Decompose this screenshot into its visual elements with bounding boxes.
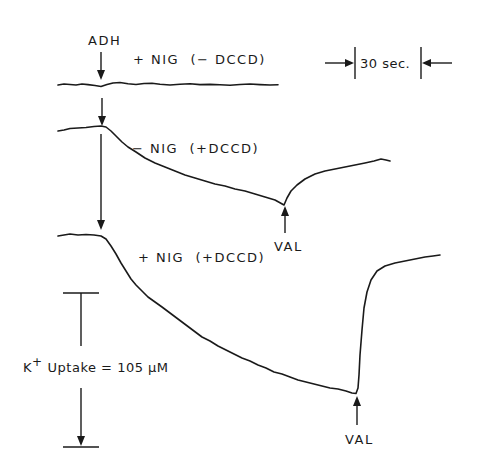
val2-arrow-icon xyxy=(353,396,361,425)
adh-label: ADH xyxy=(88,33,121,48)
uptake-rest: Uptake = 105 µM xyxy=(48,360,169,375)
trace-minus-nig-plus-dccd xyxy=(58,126,390,205)
uptake-plus: + xyxy=(32,355,43,369)
arrow-to-trace3-icon xyxy=(97,134,105,230)
uptake-k: K xyxy=(23,360,32,375)
arrow-to-trace2-icon xyxy=(98,98,106,126)
k-uptake-trace-figure: ADH + NIG (− DCCD) 30 sec. − NIG (+DCCD)… xyxy=(0,0,482,474)
trace1-label: + NIG (− DCCD) xyxy=(133,52,266,67)
trace-plus-nig-minus-dccd xyxy=(58,83,278,87)
adh-arrow-icon xyxy=(97,52,105,80)
uptake-scale-label: K+Uptake = 105 µM xyxy=(23,355,169,375)
trace2-label: − NIG (+DCCD) xyxy=(132,141,259,156)
val1-label: VAL xyxy=(274,239,303,254)
val1-arrow-icon xyxy=(281,206,289,233)
time-scale-label: 30 sec. xyxy=(360,56,410,71)
val2-label: VAL xyxy=(345,432,374,447)
trace3-label: + NIG (+DCCD) xyxy=(138,250,265,265)
